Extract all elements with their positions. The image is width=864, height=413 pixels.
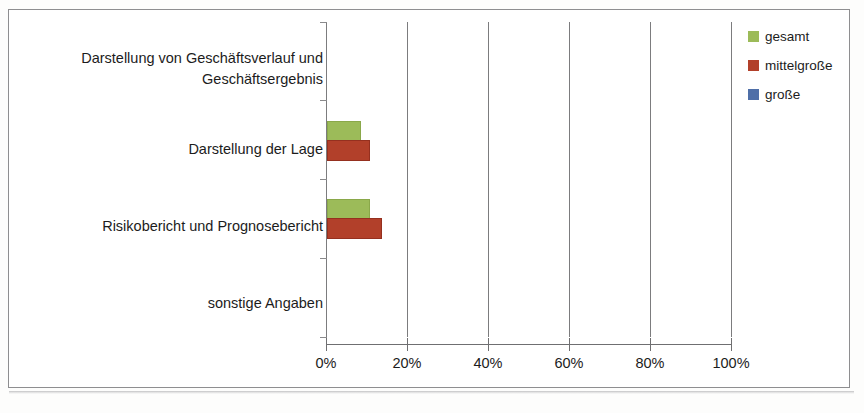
- legend-label-grosse: große: [765, 87, 800, 102]
- legend-swatch-grosse: [748, 89, 759, 100]
- scanned-page: Darstellung von Geschäftsverlauf und Ges…: [0, 0, 864, 413]
- axis-tick-100: [731, 338, 732, 351]
- gridline-60: [569, 22, 570, 337]
- bar-gesamt-risikobericht: [327, 199, 370, 220]
- category-label-line1: sonstige Angaben: [23, 293, 323, 314]
- axis-tick-label-20: 20%: [372, 355, 442, 371]
- axis-tick-label-40: 40%: [453, 355, 523, 371]
- legend-item-mittelgrosse: mittelgroße: [748, 51, 848, 80]
- category-label-darstellung-der-lage: Darstellung der Lage: [23, 139, 323, 160]
- legend-swatch-gesamt: [748, 31, 759, 42]
- category-label-line2: Geschäftsergebnis: [23, 69, 323, 90]
- axis-tick-20: [407, 338, 408, 351]
- legend-item-gesamt: gesamt: [748, 22, 848, 51]
- legend-label-mittelgrosse: mittelgroße: [765, 58, 833, 73]
- category-label-line1: Darstellung der Lage: [23, 139, 323, 160]
- axis-tick-40: [488, 338, 489, 351]
- axis-tick-label-0: 0%: [291, 355, 361, 371]
- axis-tick-label-100: 100%: [696, 355, 766, 371]
- category-tick: [320, 258, 327, 259]
- gridline-80: [650, 22, 651, 337]
- category-tick: [320, 22, 327, 23]
- gridline-20: [407, 22, 408, 337]
- axis-tick-label-60: 60%: [534, 355, 604, 371]
- value-axis-line: [326, 344, 732, 345]
- axis-tick-80: [650, 338, 651, 351]
- category-tick: [320, 179, 327, 180]
- category-label-line1: Risikobericht und Prognosebericht: [23, 216, 323, 237]
- legend-swatch-mittelgrosse: [748, 60, 759, 71]
- category-label-darstellung-geschaeftsverlauf: Darstellung von Geschäftsverlauf und Ges…: [23, 48, 323, 90]
- category-label-sonstige-angaben: sonstige Angaben: [23, 293, 323, 314]
- gridline-40: [488, 22, 489, 337]
- bar-mittelgrosse-darstellung-der-lage: [327, 140, 370, 161]
- category-tick: [320, 100, 327, 101]
- category-label-risikobericht-prognosebericht: Risikobericht und Prognosebericht: [23, 216, 323, 237]
- chart-legend: gesamt mittelgroße große: [748, 22, 848, 109]
- category-label-line1: Darstellung von Geschäftsverlauf und: [23, 48, 323, 69]
- bar-gesamt-darstellung-der-lage: [327, 121, 361, 142]
- plot-right-gridline: [731, 22, 732, 337]
- axis-tick-label-80: 80%: [615, 355, 685, 371]
- page-edge-shadow: [9, 391, 854, 394]
- chart-frame: Darstellung von Geschäftsverlauf und Ges…: [8, 9, 850, 388]
- legend-item-grosse: große: [748, 80, 848, 109]
- axis-tick-0: [326, 338, 327, 351]
- axis-tick-60: [569, 338, 570, 351]
- bar-mittelgrosse-risikobericht: [327, 218, 382, 239]
- legend-label-gesamt: gesamt: [765, 29, 809, 44]
